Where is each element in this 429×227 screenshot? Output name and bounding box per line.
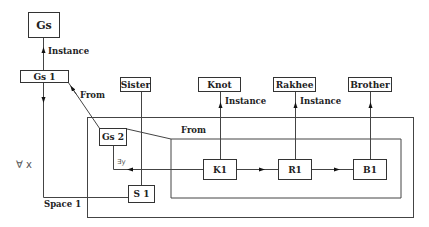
node-gs1: Gs 1 [20,70,69,83]
node-gs2: Gs 2 [99,128,127,146]
label-exists-y: ∃y [117,158,126,166]
node-b1: B1 [353,159,387,180]
node-knot: Knot [198,77,241,92]
node-gs: Gs [28,12,60,38]
label-instance-gs: Instance [48,46,89,56]
label-instance-rakhee: Instance [300,96,341,106]
node-k1: K1 [203,159,237,180]
node-brother: Brother [348,77,392,92]
label-instance-knot: Instance [225,96,266,106]
node-r1: R1 [278,159,312,180]
node-s1: S 1 [128,185,155,203]
label-forall-x: ∀ x [16,159,32,170]
label-space1: Space 1 [44,199,81,209]
label-from-gs1: From [80,90,105,100]
node-sister: Sister [120,77,151,92]
diagram-canvas [0,0,429,227]
label-from-gs2: From [181,125,206,135]
node-rakhee: Rakhee [273,77,316,92]
edge-gs2-exists [114,146,204,170]
